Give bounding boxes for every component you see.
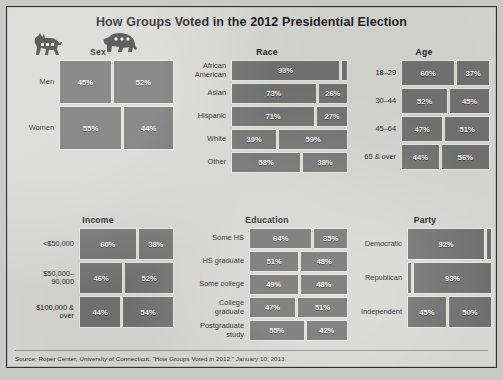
bar-republican: 42% — [306, 320, 348, 341]
bar-republican: 38% — [302, 152, 348, 173]
bar-democrat: 73% — [231, 83, 317, 104]
panel-age: Age 18–2960%37%30–4452%45%45–6447%51%65 … — [359, 47, 489, 170]
bar-track: 49%48% — [249, 274, 347, 295]
bar-track: 93% — [231, 60, 347, 81]
bar-democrat: 52% — [401, 88, 448, 114]
row-label: African American — [187, 60, 231, 81]
panel-title-sex: Sex — [23, 47, 173, 57]
row-label: 65 & over — [359, 144, 401, 170]
bar-track: 64%35% — [249, 228, 347, 249]
party-legend — [7, 7, 496, 33]
bar-row: 18–2960%37% — [359, 60, 489, 86]
bar-row: Democratic92% — [359, 228, 491, 260]
bar-track: 92% — [407, 228, 491, 260]
source-note: Source: Roper Center, University of Conn… — [15, 355, 286, 362]
row-label: Some HS — [187, 228, 249, 249]
panel-title-education: Education — [187, 215, 347, 225]
row-label: Other — [187, 152, 231, 173]
bar-track: 55%44% — [59, 106, 173, 150]
panel-title-income: Income — [23, 215, 173, 225]
infographic-paper: How Groups Voted in the 2012 Presidentia… — [6, 6, 497, 368]
bar-row: 45–6447%51% — [359, 116, 489, 142]
bar-row: Republican93% — [359, 262, 491, 294]
bar-democrat: 47% — [401, 116, 443, 142]
bar-republican: 52% — [113, 60, 174, 104]
bar-row: Asian73%26% — [187, 83, 347, 104]
bar-row: African American93% — [187, 60, 347, 81]
bar-rows-race: African American93%Asian73%26%Hispanic71… — [187, 60, 347, 173]
bar-row: Women55%44% — [23, 106, 173, 150]
panel-title-age: Age — [359, 47, 489, 57]
bar-republican: 35% — [313, 228, 348, 249]
scanned-page: How Groups Voted in the 2012 Presidentia… — [0, 0, 503, 380]
bar-democrat: 58% — [231, 152, 301, 173]
row-label: Asian — [187, 83, 231, 104]
bar-row: 30–4452%45% — [359, 88, 489, 114]
bar-republican: 27% — [316, 106, 348, 127]
bar-rows-sex: Men45%52%Women55%44% — [23, 60, 173, 150]
row-label: Men — [23, 60, 59, 104]
bar-track: 47%51% — [249, 297, 347, 318]
bar-row: 65 & over44%56% — [359, 144, 489, 170]
bar-republican: 93% — [413, 262, 492, 294]
bar-democrat: 55% — [249, 320, 305, 341]
bar-row: Postgraduate study55%42% — [187, 320, 347, 341]
panel-title-race: Race — [187, 47, 347, 57]
bar-track: 46%52% — [79, 262, 173, 294]
bar-republican: 51% — [444, 116, 490, 142]
row-label: Hispanic — [187, 106, 231, 127]
bar-democrat: 45% — [59, 60, 112, 104]
row-label: Republican — [359, 262, 407, 294]
row-label: Women — [23, 106, 59, 150]
row-label: College graduate — [187, 297, 249, 318]
bar-republican: 37% — [456, 60, 490, 86]
bar-row: College graduate47%51% — [187, 297, 347, 318]
bar-track: 45%50% — [407, 296, 491, 328]
row-label: 30–44 — [359, 88, 401, 114]
bar-democrat: 92% — [407, 228, 485, 260]
bar-republican: 59% — [278, 129, 348, 150]
bar-row: Independent45%50% — [359, 296, 491, 328]
bar-track: 93% — [407, 262, 491, 294]
bar-democrat: 39% — [231, 129, 277, 150]
bar-row: Some HS64%35% — [187, 228, 347, 249]
bar-republican — [341, 60, 348, 81]
bar-democrat: 51% — [249, 251, 299, 272]
bar-republican: 51% — [297, 297, 348, 318]
bar-track: 60%38% — [79, 228, 173, 260]
bar-row: Other58%38% — [187, 152, 347, 173]
bar-republican: 56% — [441, 144, 490, 170]
bar-track: 44%54% — [79, 296, 173, 328]
bar-row: Some college49%48% — [187, 274, 347, 295]
row-label: Independent — [359, 296, 407, 328]
bar-track: 44%56% — [401, 144, 489, 170]
bar-democrat: 47% — [249, 297, 296, 318]
bar-republican — [486, 228, 492, 260]
bar-republican: 52% — [124, 262, 174, 294]
bar-republican: 48% — [300, 274, 348, 295]
bar-track: 52%45% — [401, 88, 489, 114]
bar-republican: 26% — [318, 83, 348, 104]
bar-republican: 38% — [138, 228, 174, 260]
bar-row: HS graduate51%48% — [187, 251, 347, 272]
bar-track: 39%59% — [231, 129, 347, 150]
bar-track: 51%48% — [249, 251, 347, 272]
bar-republican: 45% — [449, 88, 490, 114]
panel-party: Party Democratic92%Republican93%Independ… — [359, 215, 491, 328]
row-label: White — [187, 129, 231, 150]
panel-race: Race African American93%Asian73%26%Hispa… — [187, 47, 347, 173]
bar-republican: 44% — [123, 106, 174, 150]
row-label: $100,000 & over — [23, 296, 79, 328]
row-label: Democratic — [359, 228, 407, 260]
bar-rows-income: <$50,00060%38%$50,000– 90,00046%52%$100,… — [23, 228, 173, 328]
bar-democrat: 71% — [231, 106, 315, 127]
bar-track: 58%38% — [231, 152, 347, 173]
panel-sex: Sex Men45%52%Women55%44% — [23, 47, 173, 150]
bar-track: 71%27% — [231, 106, 347, 127]
panel-income: Income <$50,00060%38%$50,000– 90,00046%5… — [23, 215, 173, 328]
row-label: HS graduate — [187, 251, 249, 272]
row-label: <$50,000 — [23, 228, 79, 260]
bar-democrat: 45% — [407, 296, 447, 328]
bar-track: 60%37% — [401, 60, 489, 86]
row-label: Postgraduate study — [187, 320, 249, 341]
